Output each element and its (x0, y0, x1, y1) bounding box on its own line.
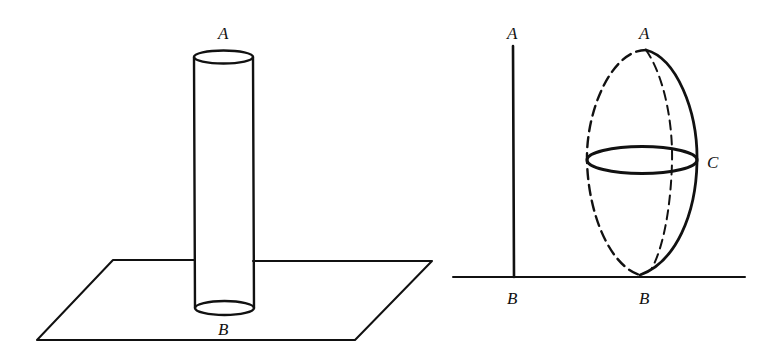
left-panel: A B (37, 24, 432, 340)
ellipsoid-meridian (646, 50, 672, 268)
equator-circle (587, 147, 697, 174)
ground-plane (37, 260, 432, 340)
ellipsoid-back-outline (587, 50, 646, 275)
diagram-canvas: A B A B A B C (0, 0, 777, 361)
label-ellipsoid-A: A (638, 24, 650, 43)
cylinder-bottom-ellipse (195, 301, 254, 315)
cylinder (194, 51, 254, 316)
label-line-A: A (506, 24, 518, 43)
label-left-A: A (217, 24, 229, 43)
cylinder-top-ellipse (194, 51, 253, 64)
ellipsoid-front-outline (640, 50, 697, 275)
label-ellipsoid-C: C (707, 153, 719, 172)
label-line-B: B (507, 289, 518, 308)
ellipsoid (587, 50, 697, 275)
segment-AB (513, 46, 514, 277)
label-left-B: B (218, 320, 229, 339)
right-panel: A B A B C (453, 24, 745, 308)
label-ellipsoid-B: B (639, 289, 650, 308)
